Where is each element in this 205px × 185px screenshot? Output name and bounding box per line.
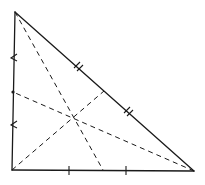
side-bc [12,170,194,171]
tick-marks-ac [74,62,133,116]
median-from-c [13,92,194,171]
midpoint-ab-dot [11,90,14,93]
side-ac [15,12,194,171]
median-from-a [15,12,103,170]
median-from-b [12,91,104,170]
triangle-medians-diagram [0,0,205,185]
